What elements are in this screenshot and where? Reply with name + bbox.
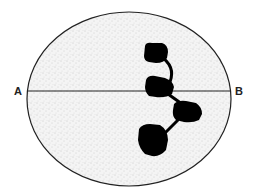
label-a: A [14, 85, 22, 97]
cell-diagram [0, 0, 255, 194]
label-b: B [235, 85, 243, 97]
cell-body [27, 12, 231, 186]
chromosome-blob-1 [144, 43, 168, 63]
